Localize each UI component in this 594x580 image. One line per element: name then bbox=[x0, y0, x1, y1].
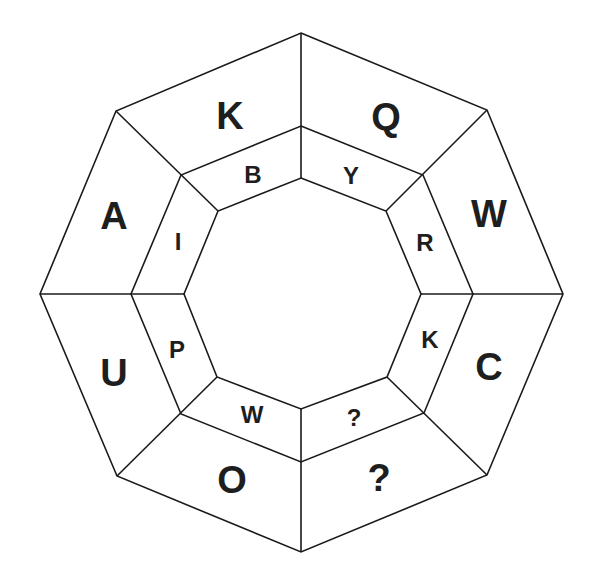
inner-letter-left-upper: I bbox=[175, 228, 182, 255]
inner-letter-right-upper: R bbox=[416, 229, 433, 256]
inner-letter-top-right: Y bbox=[343, 162, 359, 189]
outer-letter-left-upper: A bbox=[100, 195, 127, 237]
outer-letter-top-right: Q bbox=[371, 96, 401, 138]
outer-letter-bottom-left: O bbox=[217, 459, 247, 501]
inner-ring-letters: B Y R K ? W P I bbox=[169, 161, 439, 431]
outer-letter-right-lower: C bbox=[475, 346, 502, 388]
inner-letter-right-lower: K bbox=[421, 326, 439, 353]
outer-letter-left-lower: U bbox=[100, 352, 127, 394]
inner-letter-top-left: B bbox=[244, 161, 261, 188]
inner-letter-bottom-left: W bbox=[241, 401, 264, 428]
inner-letter-bottom-right-unknown: ? bbox=[347, 404, 362, 431]
inner-octagon-border bbox=[184, 178, 421, 409]
outer-letter-right-upper: W bbox=[471, 193, 507, 235]
inner-letter-left-lower: P bbox=[169, 336, 185, 363]
octagon-puzzle-diagram: K Q W C ? O U A B Y R K ? W P I bbox=[0, 0, 594, 580]
outer-letter-bottom-right-unknown: ? bbox=[367, 457, 390, 499]
outer-letter-top-left: K bbox=[216, 95, 244, 137]
